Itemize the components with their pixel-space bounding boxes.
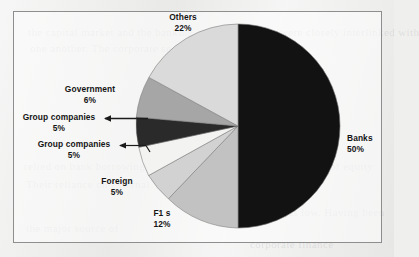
pie-label-group-companies-lower: Group companies 5%	[30, 139, 118, 160]
pie-label-government: Government 6%	[48, 84, 132, 105]
pie-label-others: Others 22%	[146, 12, 220, 33]
pie-label-others-percent: 22%	[146, 23, 220, 34]
pie-label-fis-percent: 12%	[140, 219, 184, 230]
pie-slice-banks	[238, 24, 340, 228]
pie-label-group-companies-upper-percent: 5%	[15, 123, 103, 134]
pie-label-fis: F1 s 12%	[140, 208, 184, 229]
pie-label-banks: Banks 50%	[347, 133, 391, 154]
pie-label-foreign-percent: 5%	[90, 187, 144, 198]
pie-label-fis-name: F1 s	[153, 208, 170, 218]
pie-label-foreign: Foreign 5%	[90, 176, 144, 197]
pie-label-foreign-name: Foreign	[101, 176, 132, 186]
pie-label-group-companies-upper-name: Group companies	[23, 112, 96, 122]
pie-label-others-name: Others	[169, 12, 197, 22]
pie-label-banks-percent: 50%	[347, 144, 391, 155]
pie-label-group-companies-lower-name: Group companies	[38, 139, 111, 149]
pie-label-group-companies-upper: Group companies 5%	[15, 112, 103, 133]
pie-label-government-percent: 6%	[48, 95, 132, 106]
pie-label-government-name: Government	[65, 84, 115, 94]
pie-label-banks-name: Banks	[347, 133, 373, 143]
pie-label-group-companies-lower-percent: 5%	[30, 150, 118, 161]
